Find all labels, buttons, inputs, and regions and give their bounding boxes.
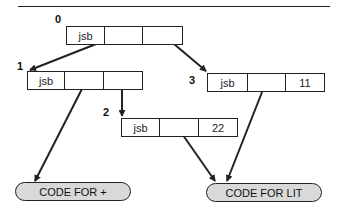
node-3-cell-2 [248,74,286,91]
node-0-cell-2 [105,27,143,44]
node-label-2: 2 [103,106,109,118]
edge-1-to-plus [35,85,84,181]
target-code-for-plus: CODE FOR + [15,182,131,201]
node-3-cell-3: 11 [286,74,324,91]
target-code-for-lit: CODE FOR LIT [206,183,322,202]
node-label-3: 3 [189,74,195,86]
node-2: jsb 22 [121,118,238,137]
node-2-cell-1: jsb [122,119,160,136]
node-3: jsb 11 [207,73,325,92]
node-0-cell-3 [143,27,182,44]
node-1-cell-1: jsb [28,72,65,89]
node-label-1: 1 [17,60,23,72]
node-1-cell-2 [65,72,104,89]
node-2-cell-2 [160,119,199,136]
node-0: jsb [66,26,183,45]
node-2-cell-3: 22 [199,119,237,136]
node-0-cell-1: jsb [67,27,105,44]
node-1-cell-3 [104,72,142,89]
node-label-0: 0 [55,13,61,25]
node-3-cell-1: jsb [208,74,248,91]
node-1: jsb [27,71,143,90]
